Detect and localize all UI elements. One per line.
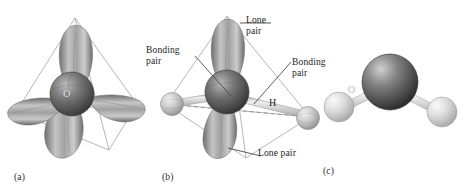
panel-c-ball-and-stick [312, 0, 466, 193]
panel-b-water-molecule: O H H [128, 0, 328, 193]
panel-b-graphic [128, 0, 328, 193]
oxygen-sphere-c [362, 54, 418, 110]
callout-bonding-pair-left: Bonding pair [146, 44, 180, 66]
hydrogen-sphere-right-c [427, 97, 457, 127]
panel-caption-b: (b) [162, 172, 174, 182]
panel-c-graphic [312, 0, 466, 193]
callout-lone-pair-bottom: Lone pair [258, 147, 296, 158]
hydrogen-sphere-left [161, 93, 184, 116]
oxygen-sphere-a [50, 72, 94, 116]
hydrogen-sphere-left-c [324, 92, 354, 122]
water-orbital-figure: O [0, 0, 466, 193]
oxygen-atom-label-a: O [63, 88, 71, 99]
callout-bonding-pair-right: Bonding pair [292, 56, 326, 78]
panel-caption-c: (c) [323, 166, 334, 176]
panel-caption-a: (a) [14, 172, 25, 182]
callout-lone-pair-top: Lone pair [246, 14, 266, 36]
hydrogen-atom-label-left: H [269, 97, 277, 108]
